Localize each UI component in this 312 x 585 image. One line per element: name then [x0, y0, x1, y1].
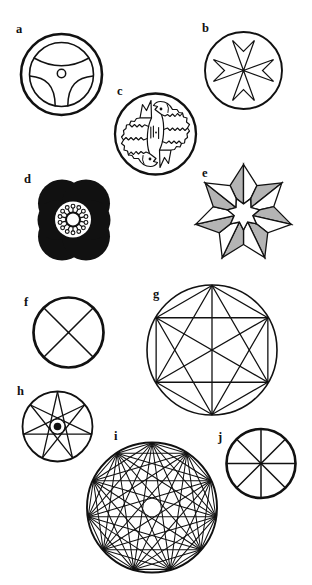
figure-label-c: c [117, 84, 123, 98]
stamen-anther [82, 226, 86, 230]
stamen-anther [77, 230, 81, 234]
symbol-plate: a b c d [0, 0, 312, 585]
stamen-anther [61, 226, 65, 230]
center-dot [242, 69, 245, 72]
mark-dot [155, 132, 157, 134]
stamen-anther [58, 215, 62, 219]
stamen-anther [71, 204, 75, 208]
stamen-anther [82, 209, 86, 213]
stamen-anther [65, 206, 69, 210]
stamen-anther [84, 215, 88, 219]
stamen-anther [77, 206, 81, 210]
figure-label-g: g [153, 287, 160, 301]
figure-label-i: i [114, 429, 118, 443]
figure-label-b: b [202, 21, 209, 35]
stamen-anther [65, 230, 69, 234]
center-dot [54, 423, 62, 431]
stamen-anther [61, 209, 65, 213]
figure-label-e: e [202, 166, 208, 180]
figure-label-a: a [16, 22, 23, 36]
figure-label-d: d [24, 172, 31, 186]
figure-label-j: j [217, 430, 222, 444]
stamen-anther [71, 231, 75, 235]
stamen-anther [58, 221, 62, 225]
figure-label-h: h [17, 384, 24, 398]
flower-core-ring [66, 213, 80, 227]
stamen-anther [84, 221, 88, 225]
